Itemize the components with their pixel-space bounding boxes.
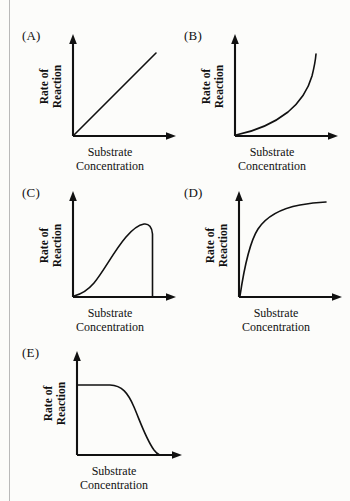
panel-c-plot xyxy=(68,189,178,301)
panel-d-curve xyxy=(240,202,326,296)
panel-b-curve xyxy=(236,54,316,135)
x-axis-label-line2: Concentration xyxy=(217,159,327,173)
panel-c-x-axis-label: Substrate Concentration xyxy=(55,306,165,334)
y-axis-label-line2: Reaction xyxy=(54,375,67,433)
panel-c-y-axis-arrowhead xyxy=(69,191,77,201)
panel-c-letter: (C) xyxy=(22,185,40,201)
x-axis-label-line1: Substrate xyxy=(217,145,327,159)
x-axis-label-line1: Substrate xyxy=(221,306,331,320)
x-axis-label-line2: Concentration xyxy=(55,159,165,173)
x-axis-label-line1: Substrate xyxy=(59,464,169,478)
y-axis-label-line2: Reaction xyxy=(50,217,63,275)
panel-d: (D) Rate of Reaction Substrate Concentra… xyxy=(184,185,334,340)
panel-c-x-axis-arrowhead xyxy=(166,293,176,301)
panel-d-x-axis-arrowhead xyxy=(332,293,342,301)
scanned-page: (A) Rate of Reaction Substrate Concentra… xyxy=(0,0,350,501)
panel-a-x-axis-arrowhead xyxy=(166,132,176,140)
panel-e-x-axis-label: Substrate Concentration xyxy=(59,464,169,492)
panel-e-y-axis-arrowhead xyxy=(73,351,81,361)
panel-e-x-axis-arrowhead xyxy=(172,451,182,459)
panel-c: (C) Rate of Reaction Substrate Concentra… xyxy=(22,185,172,340)
panel-b-x-axis-label: Substrate Concentration xyxy=(217,145,327,173)
panel-d-x-axis-label: Substrate Concentration xyxy=(221,306,331,334)
x-axis-label-line2: Concentration xyxy=(55,320,165,334)
panel-c-curve xyxy=(74,224,153,296)
panel-d-plot xyxy=(234,189,344,301)
y-axis-label-line1: Rate of xyxy=(42,375,55,433)
panel-b-y-axis-label: Rate of Reaction xyxy=(200,58,225,116)
panel-b-y-axis-arrowhead xyxy=(231,34,239,44)
y-axis-label-line1: Rate of xyxy=(38,217,51,275)
x-axis-label-line1: Substrate xyxy=(55,145,165,159)
panel-e-plot xyxy=(72,349,190,459)
x-axis-label-line1: Substrate xyxy=(55,306,165,320)
panel-b-x-axis-arrowhead xyxy=(328,132,338,140)
y-axis-label-line1: Rate of xyxy=(204,217,217,275)
y-axis-label-line2: Reaction xyxy=(50,58,63,116)
panel-a-y-axis-label: Rate of Reaction xyxy=(38,58,63,116)
panel-a-curve xyxy=(74,53,156,135)
panel-e: (E) Rate of Reaction Substrate Concentra… xyxy=(22,345,182,495)
panel-a-letter: (A) xyxy=(22,28,41,44)
panel-a-x-axis-label: Substrate Concentration xyxy=(55,145,165,173)
panel-a-plot xyxy=(68,32,178,140)
x-axis-label-line2: Concentration xyxy=(221,320,331,334)
x-axis-label-line2: Concentration xyxy=(59,478,169,492)
panel-d-y-axis-arrowhead xyxy=(235,191,243,201)
panel-a: (A) Rate of Reaction Substrate Concentra… xyxy=(22,28,172,178)
y-axis-label-line2: Reaction xyxy=(212,58,225,116)
panel-b-letter: (B) xyxy=(184,28,202,44)
y-axis-label-line1: Rate of xyxy=(200,58,213,116)
page-margin-rule xyxy=(9,0,10,501)
panel-e-letter: (E) xyxy=(22,345,39,361)
panel-b-plot xyxy=(230,32,340,140)
y-axis-label-line1: Rate of xyxy=(38,58,51,116)
panel-e-curve xyxy=(78,385,159,455)
panel-d-y-axis-label: Rate of Reaction xyxy=(204,217,229,275)
panel-b: (B) Rate of Reaction Substrate Concentra… xyxy=(184,28,334,178)
y-axis-label-line2: Reaction xyxy=(216,217,229,275)
panel-c-y-axis-label: Rate of Reaction xyxy=(38,217,63,275)
panel-d-letter: (D) xyxy=(184,185,203,201)
panel-a-y-axis-arrowhead xyxy=(69,34,77,44)
panel-e-y-axis-label: Rate of Reaction xyxy=(42,375,67,433)
